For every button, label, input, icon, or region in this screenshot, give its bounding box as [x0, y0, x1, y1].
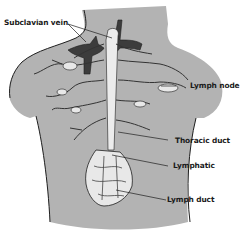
label-thoracic-duct: Thoracic duct — [175, 136, 230, 145]
label-lymphatic: Lymphatic — [173, 161, 215, 170]
label-lymph-node: Lymph node — [190, 81, 240, 90]
label-subclavian-vein: Subclavian vein — [4, 18, 68, 27]
lymphatic-diagram — [0, 0, 249, 241]
label-lymph-duct: Lymph duct — [167, 195, 214, 204]
